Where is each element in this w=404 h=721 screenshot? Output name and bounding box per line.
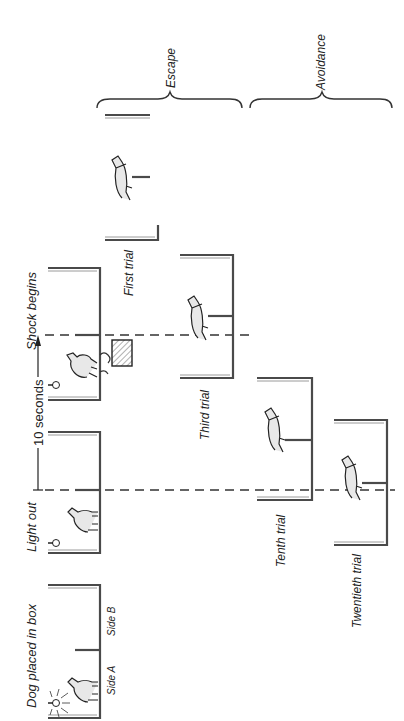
- trial-label-twentieth: Twentieth trial: [350, 554, 364, 628]
- label-ten-seconds: 10 seconds: [31, 378, 46, 449]
- label-side-b: Side B: [106, 607, 117, 636]
- label-layer: Dog placed in box Side A Side B Light ou…: [0, 0, 404, 721]
- label-shock-begins: Shock begins: [24, 272, 39, 350]
- group-label-avoidance: Avoidance: [314, 34, 328, 90]
- trial-label-first: First trial: [122, 250, 136, 296]
- label-dog-placed: Dog placed in box: [24, 604, 39, 708]
- trial-label-third: Third trial: [198, 390, 212, 440]
- trial-label-tenth: Tenth trial: [274, 515, 288, 567]
- group-label-escape: Escape: [164, 48, 178, 88]
- label-side-a: Side A: [106, 666, 117, 695]
- label-light-out: Light out: [24, 502, 39, 552]
